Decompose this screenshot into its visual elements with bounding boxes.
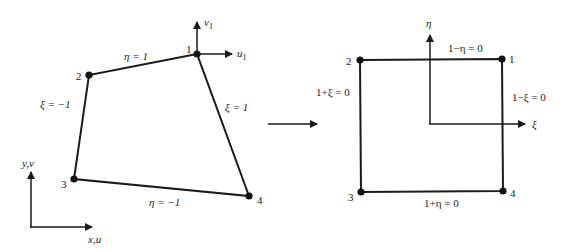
physical-node-4 [245, 192, 252, 199]
global-y-axis-label: y,v [21, 157, 34, 169]
natural-node-4-label: 4 [510, 187, 516, 199]
natural-edge-left-label: 1+ξ = 0 [316, 86, 350, 99]
physical-node-3-label: 3 [61, 178, 67, 190]
physical-node-1-label: 1 [186, 43, 192, 55]
physical-quad-outline [74, 54, 249, 196]
natural-node-1-label: 1 [509, 53, 515, 65]
natural-element: 1 2 3 4 1−η = 0 1+ξ = 0 1−ξ = 0 1+η = 0 … [316, 17, 546, 209]
natural-node-2 [356, 56, 363, 63]
physical-edge-left-label: ξ = −1 [40, 98, 71, 111]
natural-node-2-label: 2 [346, 55, 352, 67]
isoparametric-mapping-diagram: 1 2 3 4 η = 1 ξ = −1 ξ = 1 η = −1 v1 u1 … [0, 0, 563, 252]
natural-edge-bottom-label: 1+η = 0 [424, 197, 459, 209]
physical-node-4-label: 4 [257, 194, 263, 206]
natural-node-1 [498, 55, 505, 62]
eta-axis-label: η [426, 17, 431, 29]
v1-label: v1 [204, 16, 213, 31]
global-x-axis-label: x,u [87, 233, 102, 245]
natural-square-outline [360, 59, 503, 192]
natural-node-3-label: 3 [348, 191, 354, 203]
physical-node-3 [70, 175, 77, 182]
physical-element: 1 2 3 4 η = 1 ξ = −1 ξ = 1 η = −1 v1 u1 … [21, 16, 263, 245]
physical-edge-top-label: η = 1 [124, 50, 148, 62]
physical-edge-bottom-label: η = −1 [149, 196, 180, 208]
natural-node-4 [499, 187, 506, 194]
physical-node-2-label: 2 [76, 70, 82, 82]
u1-label: u1 [237, 47, 247, 62]
physical-node-2 [85, 71, 92, 78]
natural-edge-right-label: 1−ξ = 0 [512, 91, 546, 104]
natural-node-3 [357, 188, 364, 195]
xi-axis-label: ξ [532, 118, 537, 131]
physical-edge-right-label: ξ = 1 [225, 101, 248, 114]
natural-edge-top-label: 1−η = 0 [448, 42, 483, 54]
